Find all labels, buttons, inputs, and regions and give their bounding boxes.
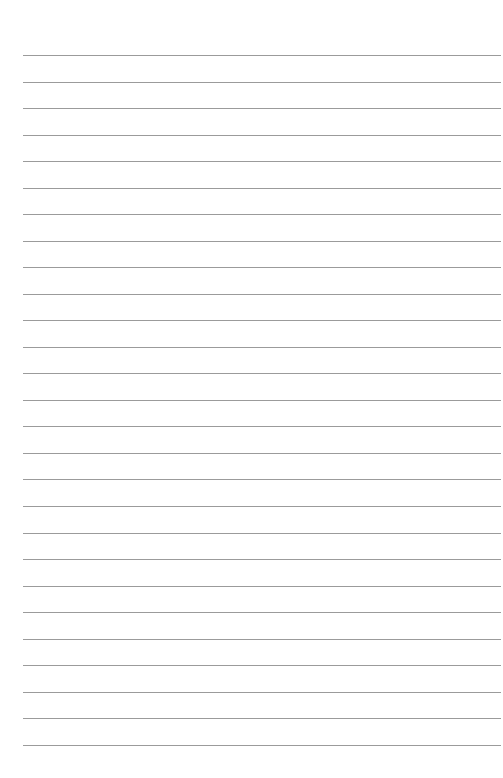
ruled-line: [23, 533, 501, 534]
ruled-line: [23, 426, 501, 427]
ruled-line: [23, 267, 501, 268]
ruled-line: [23, 108, 501, 109]
ruled-line: [23, 294, 501, 295]
ruled-line: [23, 55, 501, 56]
ruled-line: [23, 347, 501, 348]
ruled-line: [23, 506, 501, 507]
ruled-line: [23, 745, 501, 746]
ruled-line: [23, 188, 501, 189]
ruled-line: [23, 639, 501, 640]
ruled-line: [23, 718, 501, 719]
ruled-line: [23, 320, 501, 321]
ruled-line: [23, 612, 501, 613]
ruled-line: [23, 373, 501, 374]
ruled-line: [23, 479, 501, 480]
ruled-line: [23, 135, 501, 136]
ruled-line: [23, 586, 501, 587]
ruled-line: [23, 82, 501, 83]
ruled-line: [23, 665, 501, 666]
ruled-line: [23, 400, 501, 401]
ruled-line: [23, 214, 501, 215]
lined-paper-page: [0, 0, 503, 778]
ruled-line: [23, 161, 501, 162]
ruled-line: [23, 453, 501, 454]
ruled-line: [23, 559, 501, 560]
ruled-line: [23, 241, 501, 242]
ruled-line: [23, 692, 501, 693]
